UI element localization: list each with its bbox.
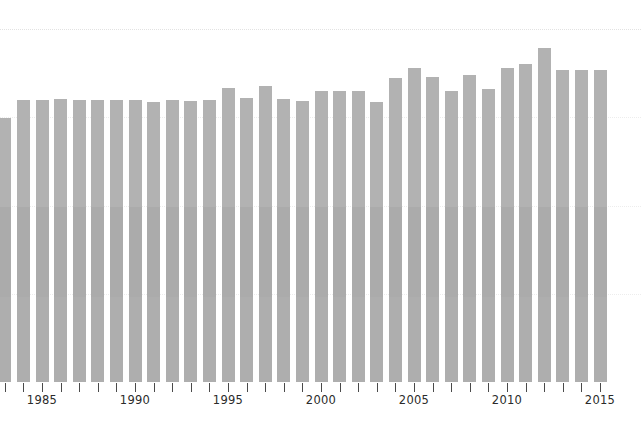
bar [352,91,365,382]
bar-segment [389,207,402,297]
bar [519,64,532,382]
x-axis-tick [265,383,266,392]
bar-segment [222,297,235,382]
bar-segment [501,297,514,382]
x-axis-tick [98,383,99,392]
x-axis-tick [228,383,229,392]
bar-segment [408,297,421,382]
bar-segment [426,207,439,297]
x-axis-tick [581,383,582,392]
bar-segment [556,297,569,382]
bar-segment [129,207,142,297]
bar-segment [333,207,346,297]
bar [315,91,328,382]
bar [463,75,476,382]
bar-segment [277,207,290,297]
bar [166,100,179,382]
x-axis-tick [526,383,527,392]
bar [259,86,272,382]
plot-area: 1985199019952000200520102015 [0,0,641,432]
bar [184,101,197,382]
x-axis-tick-label: 2000 [306,393,336,407]
x-axis-tick-label: 1995 [213,393,243,407]
bar-segment [352,297,365,382]
bar-segment [147,207,160,297]
bar-segment [259,297,272,382]
x-axis-tick-label: 2015 [585,393,615,407]
bar-segment [166,297,179,382]
x-axis-tick [209,383,210,392]
bar-segment [594,297,607,382]
bar-segment [519,207,532,297]
x-axis-tick [563,383,564,392]
bar-segment [0,297,11,382]
bar [594,70,607,382]
bar-segment [0,207,11,297]
bar-segment [73,207,86,297]
bar [17,100,30,382]
bar [91,100,104,382]
gridline [0,29,641,30]
x-axis-tick [302,383,303,392]
bar-segment [240,297,253,382]
x-axis-tick [340,383,341,392]
bar-segment [277,297,290,382]
bar [426,77,439,382]
bar-segment [203,207,216,297]
bar-segment [426,297,439,382]
bar-segment [110,297,123,382]
bar [501,68,514,382]
x-axis-tick [395,383,396,392]
bar-segment [315,297,328,382]
bar-segment [166,207,179,297]
x-axis-tick [154,383,155,392]
x-axis-tick [79,383,80,392]
bar [370,102,383,382]
bar [147,102,160,382]
bar [129,100,142,382]
x-axis-tick [377,383,378,392]
bar-segment [370,207,383,297]
x-axis-tick [470,383,471,392]
bar-segment [556,207,569,297]
x-axis-tick [507,383,508,392]
bar-segment [463,207,476,297]
bar-segment [203,297,216,382]
bar-segment [91,297,104,382]
bar-segment [594,207,607,297]
bar-segment [333,297,346,382]
bar [389,78,402,382]
bar [408,68,421,382]
bar [110,100,123,382]
x-axis-tick [172,383,173,392]
bar [575,70,588,382]
x-axis-tick-label: 2010 [492,393,522,407]
bar [333,91,346,382]
bar [203,100,216,382]
x-axis-tick [5,383,6,392]
bar [482,89,495,382]
x-axis-tick [544,383,545,392]
bar-segment [482,297,495,382]
bar-segment [296,297,309,382]
bar [240,98,253,382]
bar-segment [129,297,142,382]
bar-segment [17,207,30,297]
bar-segment [36,297,49,382]
bar-segment [408,207,421,297]
bar-segment [389,297,402,382]
x-axis-tick [42,383,43,392]
bar-segment [147,297,160,382]
bar-segment [315,207,328,297]
bar-segment [445,207,458,297]
bar-segment [463,297,476,382]
bar-segment [501,207,514,297]
bar-segment [519,297,532,382]
bar-segment [240,207,253,297]
x-axis-tick [358,383,359,392]
x-axis-tick [23,383,24,392]
bar-chart: 1985199019952000200520102015 [0,0,641,432]
x-axis-tick-label: 2005 [399,393,429,407]
bar-segment [17,297,30,382]
bar [277,99,290,382]
